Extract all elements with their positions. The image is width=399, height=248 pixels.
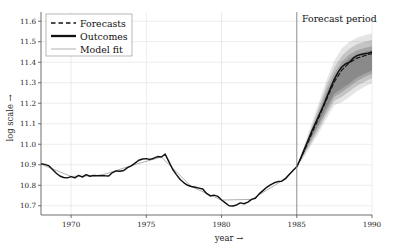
- legend-label-outcomes: Outcomes: [80, 31, 128, 42]
- y-tick-label: 10.9: [20, 160, 36, 169]
- y-tick-label: 11.0: [20, 140, 36, 149]
- forecast-period-label: Forecast period: [302, 13, 377, 24]
- y-axis-title: log scale →: [5, 94, 15, 141]
- y-tick-label: 11.5: [20, 37, 36, 46]
- y-tick-label: 10.8: [20, 181, 36, 190]
- y-tick-label: 11.1: [20, 119, 36, 128]
- x-tick-label: 1985: [288, 220, 307, 229]
- x-tick-label: 1970: [62, 220, 81, 229]
- x-tick-label: 1990: [363, 220, 382, 229]
- forecast-fan-chart: 19701975198019851990 10.710.810.911.011.…: [0, 0, 399, 248]
- x-tick-label: 1975: [137, 220, 156, 229]
- legend-label-model-fit: Model fit: [80, 44, 123, 55]
- y-tick-label: 11.6: [20, 17, 36, 26]
- y-tick-label: 10.7: [20, 201, 36, 210]
- y-tick-label: 11.3: [20, 78, 36, 87]
- y-tick-label: 11.4: [20, 58, 36, 67]
- chart-figure: 19701975198019851990 10.710.810.911.011.…: [0, 0, 399, 248]
- x-tick-label: 1980: [212, 220, 231, 229]
- legend-label-forecasts: Forecasts: [80, 18, 126, 29]
- x-axis-title: year →: [214, 233, 243, 243]
- y-tick-label: 11.2: [20, 99, 36, 108]
- chart-legend: Forecasts Outcomes Model fit: [46, 14, 132, 56]
